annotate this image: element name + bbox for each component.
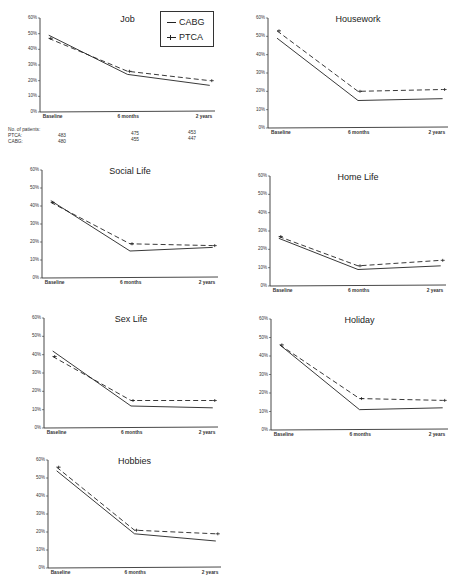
chart-hobbies: Hobbies60%50%40%30%20%10%0%Baseline6 mon… [0, 0, 454, 588]
y-tick-label: 0% [247, 283, 267, 288]
patients-cabg-baseline: 480 [58, 139, 66, 144]
x-tick-label: Baseline [273, 288, 293, 293]
x-tick-label: 6 months [118, 114, 139, 119]
patients-ptca-baseline: 483 [58, 133, 66, 138]
x-tick-label: Baseline [274, 432, 294, 437]
series-ptca-line [279, 237, 441, 266]
y-tick-label: 60% [248, 316, 268, 321]
x-tick-label: 6 months [350, 432, 371, 437]
y-tick-label: 40% [21, 352, 41, 357]
plot-area [0, 0, 454, 588]
x-tick-label: Baseline [271, 130, 291, 135]
chart-job: Job60%50%40%30%20%10%0%Baseline6 months2… [0, 0, 454, 588]
x-tick-label: 2 years [429, 432, 446, 437]
y-tick-label: 0% [248, 427, 268, 432]
x-tick-label: 2 years [196, 114, 213, 119]
y-tick-label: 40% [17, 46, 37, 51]
y-tick-label: 50% [19, 185, 39, 190]
plot-area [0, 0, 454, 588]
y-tick-label: 40% [247, 210, 267, 215]
y-tick-label: 30% [17, 62, 37, 67]
x-tick-label: 2 years [199, 280, 216, 285]
y-tick-label: 20% [25, 529, 45, 534]
x-tick-label: 2 years [202, 570, 219, 575]
chart-social-life: Social Life60%50%40%30%20%10%0%Baseline6… [0, 0, 454, 588]
y-tick-label: 20% [247, 246, 267, 251]
chart-housework: Housework60%50%40%30%20%10%0%Baseline6 m… [0, 0, 454, 588]
y-tick-label: 60% [21, 315, 41, 320]
y-tick-label: 30% [245, 70, 265, 75]
series-ptca-line [57, 467, 216, 534]
y-tick-label: 30% [25, 511, 45, 516]
x-axis [48, 567, 221, 568]
y-tick-label: 50% [247, 191, 267, 196]
chart-title: Hobbies [95, 456, 175, 466]
y-tick-label: 10% [25, 547, 45, 552]
y-tick-label: 10% [17, 93, 37, 98]
x-tick-label: 2 years [429, 130, 446, 135]
x-tick-label: 2 years [427, 288, 444, 293]
plot-area [0, 0, 454, 588]
y-tick-label: 20% [17, 78, 37, 83]
y-tick-label: 0% [19, 275, 39, 280]
x-axis [268, 127, 448, 128]
x-axis [44, 427, 218, 428]
y-tick-label: 10% [19, 257, 39, 262]
y-tick-label: 10% [247, 265, 267, 270]
series-ptca-line [53, 357, 213, 401]
patients-header: No. of patients: [8, 127, 40, 132]
y-tick-label: 20% [248, 390, 268, 395]
patients-cabg-label: CABG: [8, 139, 23, 144]
chart-title: Job [88, 14, 168, 24]
series-cabg-line [51, 201, 213, 251]
x-tick-label: 6 months [121, 430, 142, 435]
y-tick-label: 60% [19, 167, 39, 172]
y-tick-label: 60% [247, 173, 267, 178]
chart-title: Sex Life [91, 314, 171, 324]
plot-area [0, 0, 454, 588]
chart-title: Housework [318, 14, 398, 24]
x-tick-label: Baseline [45, 280, 65, 285]
x-tick-label: 6 months [125, 570, 146, 575]
plot-area [0, 0, 454, 588]
y-tick-label: 50% [17, 31, 37, 36]
legend: CABG PTCA [160, 11, 214, 47]
y-tick-label: 50% [25, 475, 45, 480]
y-tick-label: 10% [245, 107, 265, 112]
patients-cabg-2y: 447 [188, 136, 196, 141]
chart-title: Home Life [318, 172, 398, 182]
y-tick-label: 60% [245, 15, 265, 20]
x-axis [40, 111, 215, 112]
y-tick-label: 40% [19, 203, 39, 208]
x-axis [270, 285, 446, 286]
plot-area [0, 0, 454, 588]
y-tick-label: 40% [248, 353, 268, 358]
series-ptca-line [280, 345, 443, 401]
legend-entry-cabg: CABG [167, 17, 205, 27]
x-tick-label: Baseline [51, 570, 71, 575]
x-tick-label: Baseline [47, 430, 67, 435]
plus-marker-line-icon [167, 37, 176, 38]
legend-entry-ptca: PTCA [167, 32, 203, 42]
series-cabg-line [277, 38, 443, 100]
y-tick-label: 0% [245, 125, 265, 130]
y-tick-label: 30% [248, 372, 268, 377]
solid-line-icon [167, 22, 176, 23]
y-tick-label: 60% [17, 15, 37, 20]
x-tick-label: 6 months [120, 280, 141, 285]
y-tick-label: 50% [248, 335, 268, 340]
series-ptca-line [51, 202, 213, 245]
patients-ptca-label: PTCA: [8, 133, 22, 138]
y-tick-label: 0% [17, 109, 37, 114]
chart-home-life: Home Life60%50%40%30%20%10%0%Baseline6 m… [0, 0, 454, 588]
chart-sex-life: Sex Life60%50%40%30%20%10%0%Baseline6 mo… [0, 0, 454, 588]
y-tick-label: 40% [25, 493, 45, 498]
patients-ptca-2y: 453 [188, 130, 196, 135]
y-tick-label: 0% [21, 425, 41, 430]
legend-label-cabg: CABG [179, 17, 205, 27]
y-tick-label: 30% [21, 370, 41, 375]
y-tick-label: 10% [248, 409, 268, 414]
y-tick-label: 50% [245, 33, 265, 38]
x-tick-label: 2 years [199, 430, 216, 435]
x-tick-label: 6 months [348, 130, 369, 135]
